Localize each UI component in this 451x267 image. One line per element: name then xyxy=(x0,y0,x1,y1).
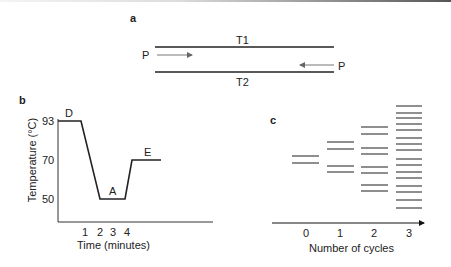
step-label-anneal: A xyxy=(109,185,116,197)
dna-strands xyxy=(155,47,334,72)
step-label-denature: D xyxy=(65,107,73,119)
y-axis-label: Temperature (°C) xyxy=(26,115,38,205)
cycle-tick-2: 2 xyxy=(371,227,377,239)
amplification-chart xyxy=(272,106,424,223)
temperature-chart xyxy=(58,119,213,222)
x-axis-label: Time (minutes) xyxy=(77,239,150,251)
x-tick-3: 3 xyxy=(110,226,116,238)
y-tick-70: 70 xyxy=(42,154,54,166)
diagram-canvas xyxy=(0,0,451,267)
cycle-tick-1: 1 xyxy=(337,227,343,239)
panel-c-letter: c xyxy=(270,114,276,126)
bands-cycle-0 xyxy=(292,156,319,163)
bands-cycle-3 xyxy=(396,106,422,208)
step-label-extend: E xyxy=(144,146,151,158)
cycle-tick-3: 3 xyxy=(406,227,412,239)
y-tick-93: 93 xyxy=(42,115,54,127)
cycles-axis-label: Number of cycles xyxy=(309,242,394,254)
y-tick-50: 50 xyxy=(42,193,54,205)
x-tick-1: 1 xyxy=(82,226,88,238)
cycle-tick-0: 0 xyxy=(303,227,309,239)
x-tick-2: 2 xyxy=(97,226,103,238)
bands-cycle-1 xyxy=(327,142,354,172)
bands-cycle-2 xyxy=(361,127,388,191)
x-tick-4: 4 xyxy=(124,226,130,238)
panel-b-letter: b xyxy=(19,94,26,106)
